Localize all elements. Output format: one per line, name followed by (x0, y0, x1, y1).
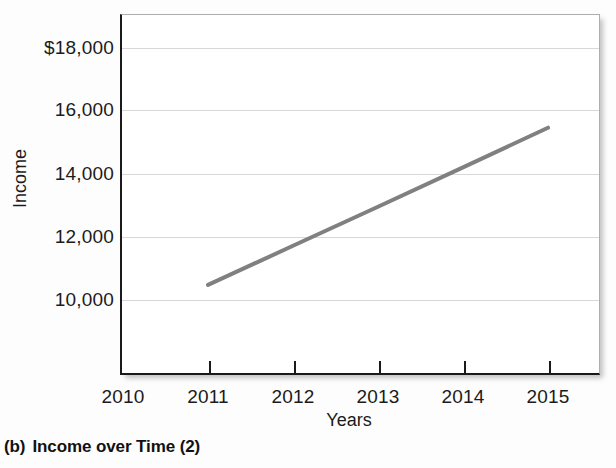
x-tick-label: 2012 (271, 386, 314, 408)
y-axis-title: Income (10, 129, 31, 229)
x-tick-label: 2015 (526, 386, 569, 408)
x-tick-label: 2013 (356, 386, 399, 408)
x-axis-tick-labels: 2010 2011 2012 2013 2014 2015 (0, 0, 616, 468)
caption-marker: (b) (4, 437, 25, 456)
x-tick-label: 2014 (441, 386, 484, 408)
x-tick-label: 2011 (187, 386, 229, 408)
caption-text: Income over Time (2) (32, 437, 200, 456)
x-axis-title: Years (0, 410, 616, 431)
figure-caption: (b)Income over Time (2) (4, 437, 200, 457)
figure: $18,000 16,000 14,000 12,000 10,000 2010… (0, 0, 616, 468)
x-tick-label: 2010 (101, 386, 144, 408)
